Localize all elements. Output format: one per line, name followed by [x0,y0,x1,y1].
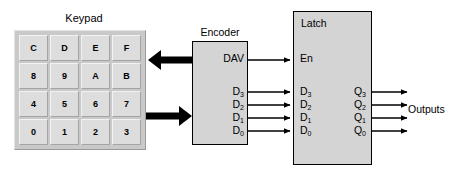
keypad-to-encoder-bus-arrow [146,106,192,126]
encoder-pin-d1-base: D [233,111,241,123]
latch-pin-q2: Q2 [322,99,366,110]
latch-pin-q3: Q3 [322,86,366,97]
latch-pin-d0-sub: 0 [308,130,312,137]
latch-pin-en: En [300,53,313,64]
keypad-dav-bus-arrow [148,50,192,70]
latch-pin-q1-sub: 1 [362,117,366,124]
latch-pin-q3-sub: 3 [362,91,366,98]
encoder-pin-d0-sub: 0 [240,130,244,137]
encoder-pin-d1: D1 [198,112,244,123]
encoder-pin-d3-base: D [233,85,241,97]
encoder-pin-d0: D0 [198,125,244,136]
latch-pin-q0-base: Q [354,124,362,136]
latch-pin-d3-sub: 3 [308,91,312,98]
latch-pin-d3-base: D [300,85,308,97]
encoder-pin-d3-sub: 3 [240,91,244,98]
encoder-pin-d2-base: D [233,98,241,110]
latch-pin-q0-sub: 0 [362,130,366,137]
latch-pin-q2-base: Q [354,98,362,110]
latch-pin-d1-sub: 1 [308,117,312,124]
outputs-label: Outputs [408,103,445,115]
latch-pin-d2-sub: 2 [308,104,312,111]
latch-pin-d2: D2 [300,99,312,110]
latch-pin-q1: Q1 [322,112,366,123]
latch-pin-d1-base: D [300,111,308,123]
encoder-pin-d1-sub: 1 [240,117,244,124]
latch-pin-d2-base: D [300,98,308,110]
latch-pin-d0: D0 [300,125,312,136]
latch-pin-d1: D1 [300,112,312,123]
encoder-pin-d2: D2 [198,99,244,110]
encoder-pin-d0-base: D [233,124,241,136]
encoder-pin-d3: D3 [198,86,244,97]
latch-pin-q1-base: Q [354,111,362,123]
latch-pin-q0: Q0 [322,125,366,136]
encoder-pin-dav: DAV [198,53,244,64]
latch-pin-q3-base: Q [354,85,362,97]
latch-pin-q2-sub: 2 [362,104,366,111]
latch-pin-d3: D3 [300,86,312,97]
latch-pin-d0-base: D [300,124,308,136]
keypad-encoder-latch-diagram: Keypad C D E F 8 9 A B 4 5 6 7 0 1 2 3 E… [0,0,458,184]
encoder-pin-d2-sub: 2 [240,104,244,111]
